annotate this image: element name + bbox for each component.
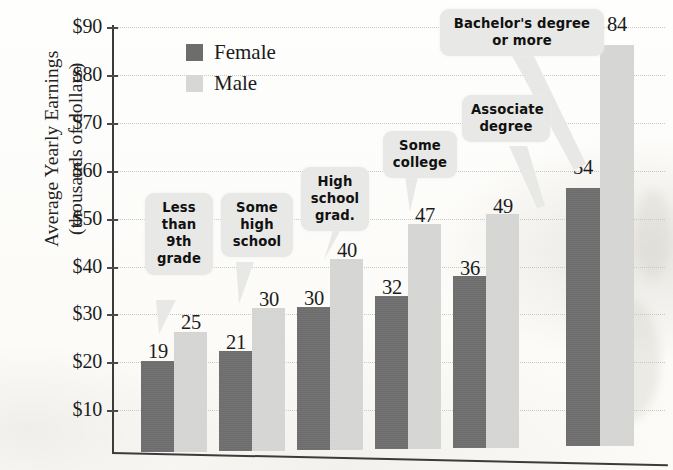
value-label: 54	[561, 156, 605, 179]
y-tick-label: $80	[46, 63, 102, 86]
y-tick-mark	[107, 267, 118, 269]
callout-line: Associate	[471, 101, 541, 118]
y-tick-label: $60	[46, 159, 102, 182]
value-label: 21	[214, 331, 258, 354]
callout-line: or more	[449, 32, 595, 49]
value-label: 32	[370, 276, 414, 299]
y-tick-label: $50	[46, 207, 102, 230]
callout-bachelors-degree-or-more[interactable]: Bachelor's degree or more	[440, 9, 604, 56]
callout-line: than	[154, 216, 204, 233]
bar-female-high-school-grad[interactable]	[297, 307, 330, 450]
y-tick-mark	[107, 410, 118, 412]
legend-label-female: Female	[214, 40, 276, 65]
y-tick-mark	[107, 123, 118, 125]
callout-line: degree	[471, 118, 541, 135]
value-label: 30	[292, 287, 336, 310]
value-label: 30	[247, 288, 291, 311]
y-tick-label: $70	[46, 111, 102, 134]
callout-line: Less	[154, 199, 204, 216]
callout-some-college[interactable]: Some college	[383, 131, 457, 178]
y-tick-mark	[107, 314, 118, 316]
y-tick-mark	[107, 75, 118, 77]
bar-male-some-college[interactable]	[408, 224, 441, 449]
callout-line: 9th	[154, 233, 204, 250]
callout-line: college	[392, 154, 448, 171]
bar-male-associate-degree[interactable]	[486, 214, 519, 448]
callout-line: school	[230, 233, 284, 250]
y-tick-mark	[107, 27, 118, 29]
y-tick-label: $30	[46, 302, 102, 325]
bar-female-some-college[interactable]	[375, 296, 408, 449]
bar-female-some-high-school[interactable]	[219, 351, 252, 451]
value-label: 49	[481, 195, 525, 218]
value-label: 36	[448, 257, 492, 280]
y-tick-label: $90	[46, 15, 102, 38]
bar-female-bachelors-or-more[interactable]	[566, 188, 600, 446]
gridline	[113, 123, 665, 124]
legend: Female Male	[186, 40, 276, 96]
callout-line: grad.	[310, 207, 360, 224]
callout-line: school	[310, 190, 360, 207]
callout-high-school-grad[interactable]: High school grad.	[301, 167, 369, 231]
y-axis-line	[112, 25, 114, 453]
legend-item-female[interactable]: Female	[186, 40, 276, 65]
y-tick-mark	[107, 362, 118, 364]
y-tick-mark	[107, 171, 118, 173]
bar-male-some-high-school[interactable]	[252, 308, 285, 451]
callout-line: grade	[154, 250, 204, 267]
callout-line: Some	[392, 137, 448, 154]
legend-label-male: Male	[214, 71, 257, 96]
y-tick-mark	[107, 219, 118, 221]
legend-item-male[interactable]: Male	[186, 71, 276, 96]
y-axis-title-line2: (thousands of dollars)	[64, 0, 88, 299]
legend-swatch-female-icon	[186, 44, 203, 61]
callout-line: High	[310, 173, 360, 190]
bar-chart-figure: Average Yearly Earnings (thousands of do…	[0, 0, 673, 470]
bar-male-bachelors-or-more[interactable]	[600, 45, 634, 446]
y-tick-label: $40	[46, 255, 102, 278]
legend-swatch-male-icon	[186, 75, 203, 92]
callout-associate-degree[interactable]: Associate degree	[462, 95, 550, 142]
callout-some-high-school[interactable]: Some high school	[221, 193, 293, 257]
bar-female-less-than-9th[interactable]	[141, 361, 174, 452]
value-label: 47	[403, 204, 447, 227]
callout-less-than-9th-grade[interactable]: Less than 9th grade	[145, 193, 213, 275]
value-label: 25	[169, 311, 213, 334]
callout-line: Bachelor's degree	[449, 15, 595, 32]
value-label: 40	[325, 239, 369, 262]
bar-female-associate-degree[interactable]	[453, 276, 486, 448]
y-axis-title: Average Yearly Earnings (thousands of do…	[40, 0, 88, 299]
y-tick-label: $20	[46, 350, 102, 373]
callout-line: Some	[230, 199, 284, 216]
callout-line: high	[230, 216, 284, 233]
value-label: 19	[136, 340, 180, 363]
y-tick-label: $10	[46, 398, 102, 421]
